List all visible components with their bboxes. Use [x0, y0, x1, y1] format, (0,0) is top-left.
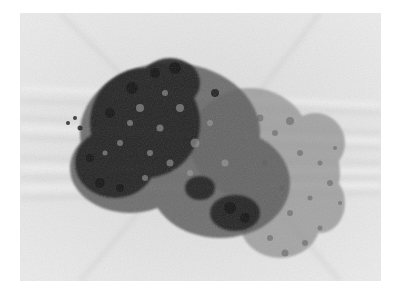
cluster-image [20, 13, 381, 281]
image-frame [20, 13, 381, 281]
